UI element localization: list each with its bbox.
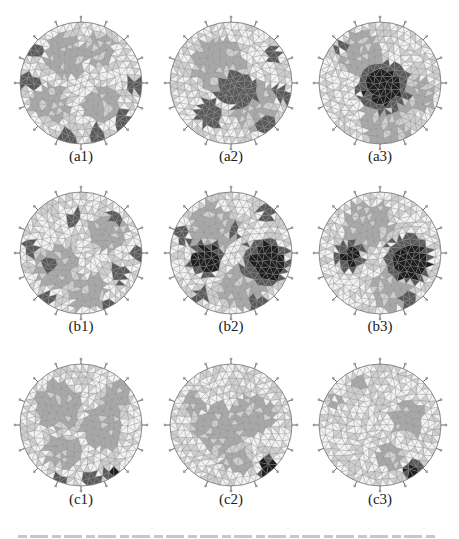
electrode-label-mark — [379, 16, 381, 18]
electrode-marker — [56, 365, 58, 369]
electrode-marker — [355, 481, 357, 485]
electrode-marker — [171, 276, 175, 278]
electrode-label-mark — [55, 143, 57, 145]
electrode-marker — [254, 23, 256, 27]
electrode-marker — [355, 193, 357, 197]
electrode-label-mark — [354, 21, 356, 23]
electrode-marker — [56, 23, 58, 27]
electrode-label-mark — [255, 485, 257, 487]
electrode-marker — [403, 309, 405, 313]
electrode-label-mark — [318, 107, 320, 109]
electrode-label-mark — [127, 129, 129, 131]
panel-label-b1: (b1) — [6, 318, 156, 335]
electrode-label-mark — [313, 252, 315, 254]
electrode-label-mark — [205, 313, 207, 315]
electrode-label-mark — [105, 485, 107, 487]
electrode-marker — [21, 228, 25, 230]
electrode-label-mark — [404, 143, 406, 145]
electrode-label-mark — [19, 57, 21, 59]
electrode-label-mark — [318, 449, 320, 451]
electrode-label-mark — [354, 143, 356, 145]
electrode-label-mark — [183, 205, 185, 207]
electrode-label-mark — [55, 363, 57, 365]
panel-label-c3: (c3) — [305, 491, 455, 508]
electrode-marker — [287, 106, 291, 108]
electrode-label-mark — [205, 363, 207, 365]
electrode-marker — [21, 276, 25, 278]
electrode-label-mark — [277, 299, 279, 301]
eit-panel-c2 — [164, 358, 298, 492]
electrode-marker — [355, 139, 357, 143]
electrode-marker — [254, 139, 256, 143]
electrode-label-mark — [105, 21, 107, 23]
eit-panel-b2 — [164, 186, 298, 320]
electrode-marker — [287, 448, 291, 450]
electrode-label-mark — [80, 186, 82, 188]
electrode-label-mark — [404, 485, 406, 487]
electrode-label-mark — [291, 399, 293, 401]
eit-panel-c1 — [14, 358, 148, 492]
electrode-label-mark — [141, 57, 143, 59]
electrode-marker — [436, 400, 440, 402]
electrode-label-mark — [205, 485, 207, 487]
electrode-label-mark — [291, 107, 293, 109]
electrode-marker — [104, 193, 106, 197]
electrode-label-mark — [440, 449, 442, 451]
electrode-label-mark — [440, 227, 442, 229]
electrode-marker — [320, 448, 324, 450]
electrode-marker — [320, 58, 324, 60]
electrode-label-mark — [127, 471, 129, 473]
electrode-label-mark — [183, 377, 185, 379]
electrode-label-mark — [127, 35, 129, 37]
electrode-marker — [171, 400, 175, 402]
electrode-label-mark — [19, 227, 21, 229]
electrode-label-mark — [404, 21, 406, 23]
electrode-marker — [137, 228, 141, 230]
electrode-marker — [104, 365, 106, 369]
electrode-label-mark — [426, 129, 428, 131]
electrode-label-mark — [404, 363, 406, 365]
eit-panel-a3 — [313, 16, 447, 150]
electrode-label-mark — [255, 313, 257, 315]
electrode-label-mark — [445, 424, 447, 426]
electrode-label-mark — [141, 277, 143, 279]
electrode-label-mark — [277, 35, 279, 37]
electrode-marker — [104, 23, 106, 27]
electrode-label-mark — [141, 399, 143, 401]
electrode-marker — [287, 228, 291, 230]
electrode-marker — [104, 139, 106, 143]
electrode-marker — [171, 448, 175, 450]
electrode-label-mark — [332, 377, 334, 379]
electrode-label-mark — [426, 377, 428, 379]
electrode-label-mark — [146, 424, 148, 426]
electrode-label-mark — [277, 129, 279, 131]
electrode-marker — [56, 309, 58, 313]
electrode-marker — [320, 276, 324, 278]
electrode-label-mark — [33, 129, 35, 131]
electrode-label-mark — [426, 35, 428, 37]
electrode-marker — [355, 309, 357, 313]
electrode-marker — [254, 481, 256, 485]
electrode-label-mark — [354, 313, 356, 315]
electrode-label-mark — [426, 299, 428, 301]
electrode-label-mark — [141, 227, 143, 229]
electrode-label-mark — [80, 358, 82, 360]
electrode-label-mark — [426, 471, 428, 473]
electrode-marker — [436, 58, 440, 60]
electrode-label-mark — [318, 57, 320, 59]
electrode-label-mark — [183, 471, 185, 473]
electrode-label-mark — [55, 21, 57, 23]
electrode-label-mark — [296, 82, 298, 84]
electrode-label-mark — [277, 377, 279, 379]
electrode-label-mark — [55, 313, 57, 315]
electrode-label-mark — [146, 82, 148, 84]
electrode-label-mark — [33, 35, 35, 37]
electrode-label-mark — [183, 129, 185, 131]
electrode-marker — [355, 23, 357, 27]
electrode-label-mark — [105, 363, 107, 365]
figure-caption-cropped — [18, 532, 438, 539]
panel-label-a1: (a1) — [6, 148, 156, 165]
electrode-label-mark — [255, 363, 257, 365]
electrode-label-mark — [291, 227, 293, 229]
electrode-label-mark — [379, 186, 381, 188]
